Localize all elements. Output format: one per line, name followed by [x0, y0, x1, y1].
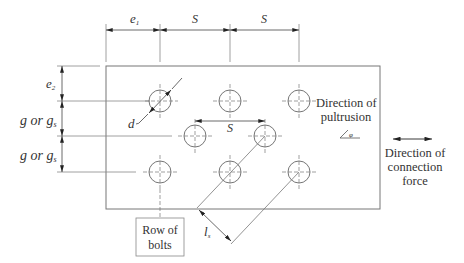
bolt-centerlines	[143, 84, 316, 218]
angle-icon: φ	[340, 130, 360, 139]
bolt-layout-diagram: e1 S S e2 g or gs g or gs	[0, 0, 464, 263]
plate	[106, 66, 380, 209]
dim-e2-label: e2	[46, 76, 56, 92]
left-extension-lines	[57, 66, 172, 172]
pultrusion-label-line1: Direction of	[316, 96, 378, 110]
dim-g1-label: g or gs	[20, 113, 57, 129]
force-label-line3: force	[402, 174, 428, 188]
force-label-line1: Direction of	[385, 146, 447, 160]
row-of-bolts-line2: bolts	[148, 238, 172, 252]
dim-d-label: d	[128, 116, 135, 131]
dim-ls-label: ls	[204, 224, 211, 240]
dim-s1-label: S	[192, 12, 198, 26]
svg-text:φ: φ	[349, 131, 353, 139]
dim-e1-label: e1	[130, 11, 139, 27]
diagonal-dimension	[197, 136, 299, 244]
dim-g2-label: g or gs	[20, 148, 57, 164]
row-of-bolts-line1: Row of	[142, 223, 178, 237]
dim-inner-s-label: S	[227, 121, 233, 135]
bolt-holes	[149, 90, 310, 183]
force-label-line2: connection	[388, 160, 444, 174]
dim-s2-label: S	[261, 12, 267, 26]
pultrusion-label-line2: pultrusion	[321, 110, 372, 124]
